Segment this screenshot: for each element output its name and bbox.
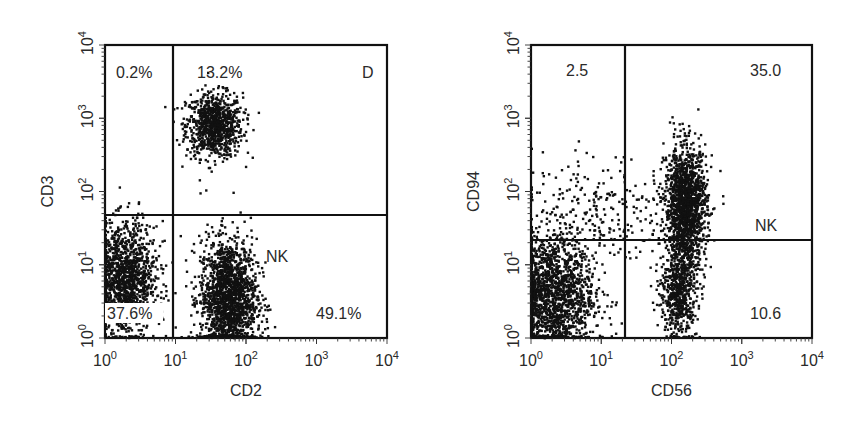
- x-tick-label: 104: [800, 349, 824, 369]
- y-tick-label: 100: [502, 324, 522, 348]
- y-axis-title: CD94: [465, 171, 482, 212]
- x-tick-label: 100: [519, 349, 543, 369]
- quadrant-label: 35.0: [750, 62, 781, 79]
- x-tick-label: 102: [660, 349, 684, 369]
- right-flow-plot: 100101102103104100101102103104CD56CD942.…: [0, 0, 427, 424]
- y-tick-label: 101: [502, 251, 522, 275]
- quadrant-label: NK: [755, 217, 778, 234]
- x-axis-title: CD56: [651, 382, 692, 399]
- y-tick-label: 102: [502, 178, 522, 202]
- x-tick-label: 103: [730, 349, 754, 369]
- x-tick-label: 101: [589, 349, 613, 369]
- quadrant-label: 2.5: [566, 62, 588, 79]
- y-tick-label: 103: [502, 104, 522, 128]
- cd56-vs-cd94-scatter: 100101102103104100101102103104CD56CD942.…: [0, 0, 855, 424]
- y-tick-label: 104: [502, 31, 522, 55]
- scatter-points: [530, 108, 725, 339]
- quadrant-label: 10.6: [750, 305, 781, 322]
